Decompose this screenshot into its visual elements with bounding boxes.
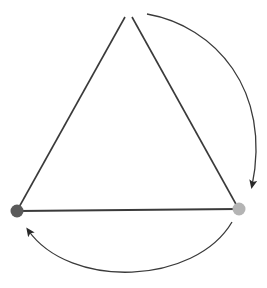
edge-bottom-left-to-bottom-right	[18, 209, 238, 211]
arrow-bottom-right-to-bottom-left	[28, 222, 232, 272]
triangle-cycle-diagram	[0, 0, 267, 288]
edge-top-to-bottom-left	[18, 17, 125, 209]
diagram-canvas	[0, 0, 267, 288]
arrow-top-to-bottom-right	[147, 14, 256, 186]
node-bottom-left	[11, 205, 24, 218]
edge-top-to-bottom-right	[132, 17, 237, 206]
node-bottom-right	[233, 203, 246, 216]
